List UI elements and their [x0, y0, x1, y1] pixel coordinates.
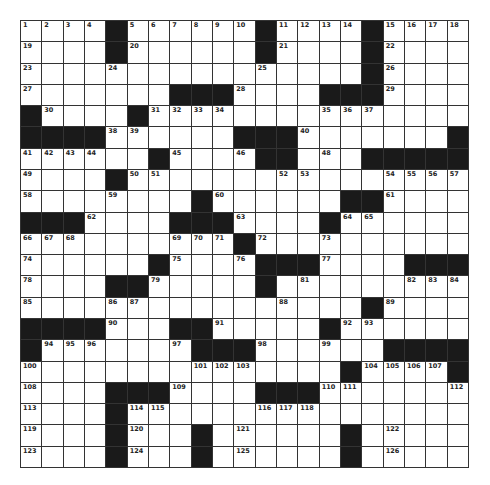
- answer-square[interactable]: [128, 319, 148, 339]
- answer-square[interactable]: [298, 42, 318, 62]
- answer-square[interactable]: 86: [106, 298, 126, 318]
- answer-square[interactable]: [42, 42, 62, 62]
- answer-square[interactable]: 124: [128, 447, 148, 467]
- answer-square[interactable]: [192, 298, 212, 318]
- answer-square[interactable]: [106, 106, 126, 126]
- answer-square[interactable]: [149, 64, 169, 84]
- answer-square[interactable]: 77: [320, 255, 340, 275]
- answer-square[interactable]: [426, 404, 446, 424]
- answer-square[interactable]: 35: [320, 106, 340, 126]
- answer-square[interactable]: [426, 64, 446, 84]
- answer-square[interactable]: [341, 276, 361, 296]
- answer-square[interactable]: 125: [234, 447, 254, 467]
- answer-square[interactable]: [42, 425, 62, 445]
- answer-square[interactable]: [405, 234, 425, 254]
- answer-square[interactable]: [85, 404, 105, 424]
- answer-square[interactable]: 1: [21, 21, 41, 41]
- answer-square[interactable]: 19: [21, 42, 41, 62]
- answer-square[interactable]: 126: [384, 447, 404, 467]
- answer-square[interactable]: [128, 85, 148, 105]
- answer-square[interactable]: [234, 170, 254, 190]
- answer-square[interactable]: [448, 85, 468, 105]
- answer-square[interactable]: [170, 127, 190, 147]
- answer-square[interactable]: [362, 404, 382, 424]
- answer-square[interactable]: [128, 149, 148, 169]
- answer-square[interactable]: [64, 404, 84, 424]
- answer-square[interactable]: 38: [106, 127, 126, 147]
- answer-square[interactable]: 53: [298, 170, 318, 190]
- answer-square[interactable]: [192, 276, 212, 296]
- answer-square[interactable]: [298, 298, 318, 318]
- answer-square[interactable]: [320, 170, 340, 190]
- answer-square[interactable]: [64, 425, 84, 445]
- answer-square[interactable]: [405, 425, 425, 445]
- answer-square[interactable]: [341, 64, 361, 84]
- answer-square[interactable]: [405, 447, 425, 467]
- answer-square[interactable]: [341, 127, 361, 147]
- answer-square[interactable]: [298, 85, 318, 105]
- answer-square[interactable]: 14: [341, 21, 361, 41]
- answer-square[interactable]: 26: [384, 64, 404, 84]
- answer-square[interactable]: 36: [341, 106, 361, 126]
- answer-square[interactable]: [341, 340, 361, 360]
- answer-square[interactable]: 56: [426, 170, 446, 190]
- answer-square[interactable]: 72: [256, 234, 276, 254]
- answer-square[interactable]: 117: [277, 404, 297, 424]
- answer-square[interactable]: 27: [21, 85, 41, 105]
- answer-square[interactable]: [320, 447, 340, 467]
- answer-square[interactable]: 32: [170, 106, 190, 126]
- answer-square[interactable]: [213, 404, 233, 424]
- answer-square[interactable]: 24: [106, 64, 126, 84]
- answer-square[interactable]: [170, 298, 190, 318]
- answer-square[interactable]: [256, 213, 276, 233]
- answer-square[interactable]: [64, 383, 84, 403]
- answer-square[interactable]: 49: [21, 170, 41, 190]
- answer-square[interactable]: 52: [277, 170, 297, 190]
- answer-square[interactable]: [149, 191, 169, 211]
- answer-square[interactable]: [426, 319, 446, 339]
- answer-square[interactable]: [149, 319, 169, 339]
- answer-square[interactable]: [426, 213, 446, 233]
- answer-square[interactable]: 84: [448, 276, 468, 296]
- answer-square[interactable]: [106, 255, 126, 275]
- answer-square[interactable]: [405, 64, 425, 84]
- answer-square[interactable]: [405, 127, 425, 147]
- answer-square[interactable]: 39: [128, 127, 148, 147]
- answer-square[interactable]: [170, 191, 190, 211]
- answer-square[interactable]: 45: [170, 149, 190, 169]
- answer-square[interactable]: [448, 447, 468, 467]
- answer-square[interactable]: [213, 383, 233, 403]
- answer-square[interactable]: 95: [64, 340, 84, 360]
- answer-square[interactable]: 118: [298, 404, 318, 424]
- answer-square[interactable]: [192, 42, 212, 62]
- answer-square[interactable]: 85: [21, 298, 41, 318]
- answer-square[interactable]: 65: [362, 213, 382, 233]
- answer-square[interactable]: 116: [256, 404, 276, 424]
- answer-square[interactable]: 31: [149, 106, 169, 126]
- answer-square[interactable]: [42, 298, 62, 318]
- answer-square[interactable]: 81: [298, 276, 318, 296]
- answer-square[interactable]: [42, 170, 62, 190]
- answer-square[interactable]: 103: [234, 362, 254, 382]
- answer-square[interactable]: [128, 234, 148, 254]
- answer-square[interactable]: [192, 170, 212, 190]
- answer-square[interactable]: 57: [448, 170, 468, 190]
- answer-square[interactable]: [64, 298, 84, 318]
- answer-square[interactable]: [426, 85, 446, 105]
- answer-square[interactable]: [277, 106, 297, 126]
- answer-square[interactable]: [405, 85, 425, 105]
- answer-square[interactable]: 89: [384, 298, 404, 318]
- answer-square[interactable]: 88: [277, 298, 297, 318]
- answer-square[interactable]: [426, 383, 446, 403]
- answer-square[interactable]: 114: [128, 404, 148, 424]
- answer-square[interactable]: 92: [341, 319, 361, 339]
- answer-square[interactable]: 62: [85, 213, 105, 233]
- answer-square[interactable]: 10: [234, 21, 254, 41]
- answer-square[interactable]: [320, 42, 340, 62]
- answer-square[interactable]: [405, 42, 425, 62]
- answer-square[interactable]: 115: [149, 404, 169, 424]
- answer-square[interactable]: [448, 191, 468, 211]
- answer-square[interactable]: [341, 404, 361, 424]
- answer-square[interactable]: 43: [64, 149, 84, 169]
- answer-square[interactable]: [405, 213, 425, 233]
